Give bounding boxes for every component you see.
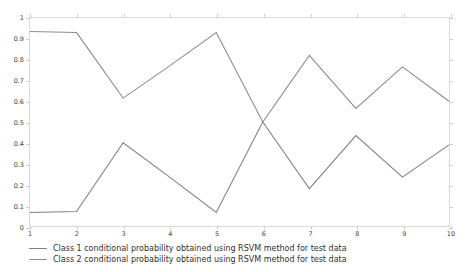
y-tick-label-0.3: 0.3 [14, 162, 24, 169]
legend-label-class-1: Class 1 conditional probability obtained… [53, 243, 347, 254]
series-lines [30, 18, 449, 226]
x-tick-label-9: 9 [402, 231, 406, 238]
y-tick-right-0.5 [449, 123, 453, 124]
x-tick-label-7: 7 [309, 231, 313, 238]
x-tick-label-4: 4 [168, 231, 172, 238]
y-tick-right-0.9 [449, 39, 453, 40]
series-line-1 [30, 122, 449, 212]
y-tick-right-1 [449, 18, 453, 19]
y-tick-label-0.8: 0.8 [14, 57, 24, 64]
x-tick-label-3: 3 [121, 231, 125, 238]
x-tick-label-1: 1 [28, 231, 32, 238]
series-line-2 [30, 32, 449, 122]
x-tick-label-10: 10 [447, 231, 455, 238]
x-tick-label-6: 6 [262, 231, 266, 238]
y-tick-right-0.4 [449, 144, 453, 145]
y-tick-label-0.6: 0.6 [14, 99, 24, 106]
legend-swatch-class-2 [29, 259, 47, 261]
y-tick-right-0.2 [449, 186, 453, 187]
legend-label-class-2: Class 2 conditional probability obtained… [53, 254, 347, 265]
plot-area: 00.10.20.30.40.50.60.70.80.91 1234567891… [29, 17, 450, 227]
legend-item-class-2: Class 2 conditional probability obtained… [29, 254, 449, 265]
legend-item-class-1: Class 1 conditional probability obtained… [29, 243, 449, 254]
x-tick-label-5: 5 [215, 231, 219, 238]
x-tick-label-2: 2 [75, 231, 79, 238]
y-tick-right-0.3 [449, 165, 453, 166]
y-tick-label-0.2: 0.2 [14, 183, 24, 190]
x-tick-label-8: 8 [355, 231, 359, 238]
y-tick-label-0.4: 0.4 [14, 141, 24, 148]
y-tick-label-0.9: 0.9 [14, 36, 24, 43]
y-tick-right-0.8 [449, 60, 453, 61]
y-tick-right-0.6 [449, 102, 453, 103]
y-tick-right-0.7 [449, 81, 453, 82]
y-tick-label-0.5: 0.5 [14, 120, 24, 127]
y-tick-label-0: 0 [20, 225, 24, 232]
x-tick-top-10 [451, 14, 452, 18]
figure-canvas: 00.10.20.30.40.50.60.70.80.91 1234567891… [0, 0, 468, 272]
y-tick-right-0.1 [449, 207, 453, 208]
y-tick-label-1: 1 [20, 15, 24, 22]
y-tick-label-0.1: 0.1 [14, 204, 24, 211]
chart-legend: Class 1 conditional probability obtained… [29, 243, 449, 265]
y-tick-label-0.7: 0.7 [14, 78, 24, 85]
legend-swatch-class-1 [29, 248, 47, 250]
